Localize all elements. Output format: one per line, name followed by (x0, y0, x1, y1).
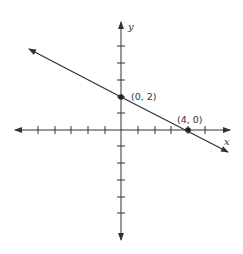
plotted-line (29, 49, 228, 152)
x-axis (15, 126, 230, 134)
coordinate-plane: (0, 2) (4, 0) x y (0, 0, 243, 254)
point-label-4-0: (4, 0) (177, 114, 203, 125)
y-axis (117, 22, 125, 240)
point-4-0 (185, 127, 191, 133)
point-label-0-2: (0, 2) (131, 91, 157, 102)
y-axis-label: y (127, 21, 134, 32)
point-0-2 (118, 94, 124, 100)
x-axis-label: x (224, 136, 230, 147)
